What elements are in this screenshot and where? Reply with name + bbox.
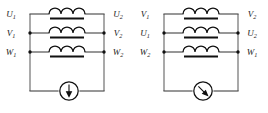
winding-row-1: V1 V2 [7, 27, 123, 39]
winding-row-0: U1 U2 [6, 8, 123, 20]
junction-dot-left [162, 50, 165, 53]
coil-symbol [183, 27, 219, 38]
winding-row-2: W2 W1 [140, 46, 258, 58]
coil-symbol [49, 8, 85, 19]
terminal-label-left-0: V1 [141, 9, 150, 20]
junction-dot-left [28, 31, 31, 34]
junction-dot-right [102, 50, 105, 53]
coil-symbol [49, 27, 85, 38]
winding-diagram-right: V1 V2 U1 U2 [134, 0, 268, 113]
junction-dot-right [236, 31, 239, 34]
terminal-label-left-2: W2 [140, 47, 151, 58]
junction-dot-left [162, 31, 165, 34]
winding-row-2: W1 W2 [6, 46, 124, 58]
terminal-label-right-1: V2 [114, 28, 123, 39]
meter-left [60, 82, 78, 100]
terminal-label-right-0: U2 [113, 9, 123, 20]
terminal-label-left-1: U1 [140, 28, 150, 39]
junction-dot-right [236, 50, 239, 53]
terminal-label-right-2: W1 [247, 47, 258, 58]
coil-symbol [183, 46, 219, 57]
meter-right [194, 82, 212, 100]
terminal-label-right-0: V2 [248, 9, 257, 20]
figure-canvas: U1 U2 V1 V2 [0, 0, 268, 113]
winding-row-0: V1 V2 [141, 8, 257, 20]
winding-diagram-left: U1 U2 V1 V2 [0, 0, 134, 113]
terminal-label-right-1: U2 [247, 28, 257, 39]
coil-symbol [183, 8, 219, 19]
winding-row-1: U1 U2 [140, 27, 257, 39]
terminal-label-left-0: U1 [6, 9, 16, 20]
coil-symbol [49, 46, 85, 57]
terminal-label-left-2: W1 [6, 47, 17, 58]
junction-dot-left [28, 50, 31, 53]
terminal-label-left-1: V1 [7, 28, 16, 39]
terminal-label-right-2: W2 [113, 47, 124, 58]
junction-dot-right [102, 31, 105, 34]
